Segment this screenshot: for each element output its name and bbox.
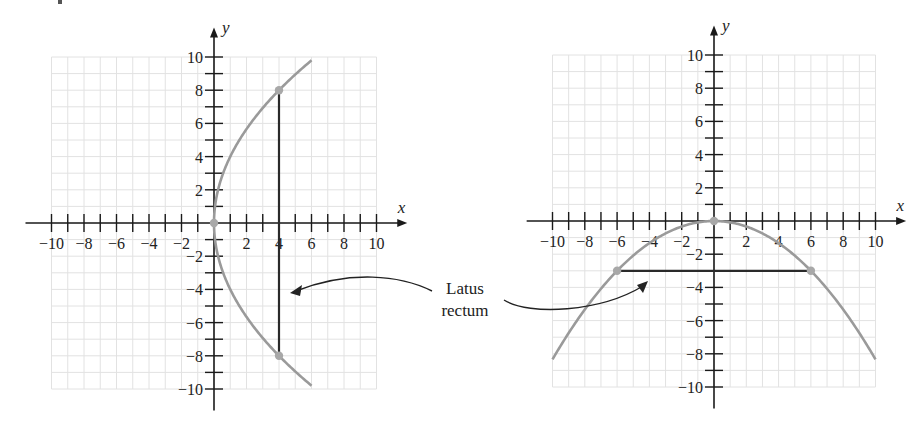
y-tick-label: 10: [687, 47, 703, 64]
x-tick-label: 8: [839, 233, 847, 250]
marked-point: [275, 86, 283, 94]
parabola-figures: xy−10−8−6−4−2246810−10−8−6−4−2246810xy−1…: [0, 0, 924, 425]
x-tick-label: −4: [140, 235, 157, 252]
y-tick-label: −4: [186, 281, 203, 298]
y-axis-arrow-icon: [210, 27, 218, 37]
callout-line-2: rectum: [420, 300, 510, 322]
x-tick-label: −8: [576, 233, 593, 250]
y-tick-label: −4: [686, 279, 703, 296]
y-tick-label: −2: [186, 248, 203, 265]
x-tick-label: 6: [807, 233, 815, 250]
y-tick-label: −2: [686, 246, 703, 263]
y-tick-label: 6: [195, 115, 203, 132]
y-tick-label: 8: [195, 82, 203, 99]
arrow-to-right-latus-rectum: [504, 286, 643, 309]
y-tick-label: −10: [178, 381, 203, 398]
marked-point: [710, 217, 718, 225]
x-axis-arrow-icon: [896, 217, 906, 225]
x-axis-label: x: [895, 196, 904, 215]
latus-rectum-callout: Latus rectum: [420, 278, 510, 322]
marked-point: [275, 352, 283, 360]
x-tick-label: 10: [868, 233, 884, 250]
y-axis-arrow-icon: [710, 25, 718, 35]
x-tick-label: 10: [369, 235, 385, 252]
y-tick-label: 2: [195, 182, 203, 199]
x-tick-label: −6: [108, 235, 125, 252]
x-tick-label: 2: [243, 235, 251, 252]
y-tick-label: −6: [686, 313, 703, 330]
x-tick-label: −8: [75, 235, 92, 252]
x-tick-label: 6: [308, 235, 316, 252]
chart-panel-2: xy−10−8−6−4−2246810−10−8−6−4−2246810: [527, 16, 906, 408]
x-tick-label: 8: [340, 235, 348, 252]
y-tick-label: −8: [686, 346, 703, 363]
y-axis-label: y: [720, 16, 730, 35]
chart-panel-1: xy−10−8−6−4−2246810−10−8−6−4−2246810: [26, 18, 408, 410]
x-axis-arrow-icon: [397, 219, 407, 227]
y-tick-label: 2: [695, 180, 703, 197]
x-tick-label: 2: [742, 233, 750, 250]
y-axis-label: y: [220, 18, 230, 37]
y-tick-label: −6: [186, 315, 203, 332]
marked-point: [210, 219, 218, 227]
callout-line-1: Latus: [420, 278, 510, 300]
y-tick-label: 10: [187, 49, 203, 66]
x-tick-label: −10: [540, 233, 565, 250]
x-axis-label: x: [397, 198, 406, 217]
y-tick-label: −10: [678, 379, 703, 396]
marked-point: [807, 267, 815, 275]
y-tick-label: −8: [186, 348, 203, 365]
x-tick-label: −6: [609, 233, 626, 250]
y-tick-label: 8: [695, 80, 703, 97]
x-tick-label: −10: [39, 235, 64, 252]
marked-point: [613, 267, 621, 275]
arrow-head-icon: [290, 285, 302, 296]
y-tick-label: 4: [195, 149, 203, 166]
y-tick-label: 4: [695, 147, 703, 164]
y-tick-label: 6: [695, 113, 703, 130]
